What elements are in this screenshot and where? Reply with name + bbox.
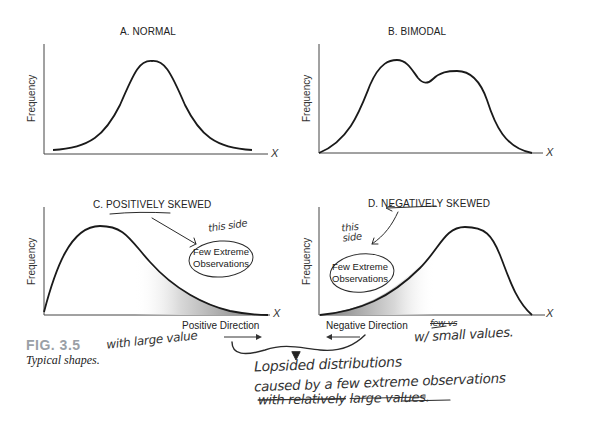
panel-c-callout: Few Extreme Observations: [187, 246, 255, 270]
panel-d-xlabel: X: [546, 307, 553, 319]
negative-direction-label: Negative Direction: [326, 320, 408, 331]
panel-a-plot: [44, 44, 268, 154]
callout-line-1: Few Extreme: [187, 246, 255, 258]
handwritten-with-relatively: with relatively: [258, 391, 346, 408]
panel-b-ylabel: Frequency: [301, 75, 312, 122]
handwritten-period: .: [426, 390, 430, 405]
panel-a-ylabel: Frequency: [26, 75, 37, 122]
handwritten-this-side-d: this side: [341, 220, 373, 243]
panel-d-ylabel: Frequency: [301, 238, 312, 285]
callout-line-1: Few Extreme: [325, 261, 395, 273]
panel-b-title: B. BIMODAL: [388, 26, 446, 37]
panel-c-ylabel: Frequency: [26, 238, 37, 285]
panel-a-title: A. NORMAL: [120, 26, 176, 37]
panel-b-plot: [319, 44, 543, 153]
direction-arrows: [224, 334, 360, 340]
panel-c-xlabel: X: [273, 307, 280, 319]
panel-b-xlabel: X: [546, 146, 553, 158]
panel-d-title: D. NEGATIVELY SKEWED: [368, 198, 490, 209]
figure-number: FIG. 3.5: [26, 337, 81, 353]
figure-caption: Typical shapes.: [26, 353, 100, 368]
panel-c-title: C. POSITIVELY SKEWED: [93, 199, 211, 210]
callout-line-2: Observations: [187, 258, 255, 270]
panel-d-callout: Few Extreme Observations: [325, 261, 395, 285]
handwritten-large-values-struck: large values: [350, 390, 426, 406]
handwritten-lopsided-line-3: with relatively large values.: [258, 390, 430, 408]
panel-a-xlabel: X: [271, 147, 278, 159]
callout-line-2: Observations: [325, 273, 395, 285]
